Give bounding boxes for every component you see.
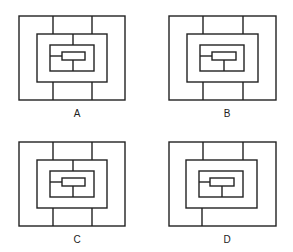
- outer-rect: [169, 16, 276, 100]
- core-rect: [62, 52, 85, 60]
- core-rect: [212, 52, 236, 60]
- inner-rect: [200, 45, 244, 71]
- middle-rect: [37, 34, 107, 82]
- figure-c: C: [19, 142, 125, 245]
- figure-d: D: [169, 142, 276, 245]
- outer-rect: [19, 16, 125, 100]
- figure-label: A: [74, 108, 81, 119]
- middle-rect: [37, 160, 107, 208]
- middle-rect: [187, 34, 258, 82]
- figure-b: B: [169, 16, 276, 119]
- outer-rect: [19, 142, 125, 226]
- inner-rect: [50, 45, 94, 71]
- outer-rect: [169, 142, 276, 226]
- figure-label: D: [223, 234, 230, 245]
- inner-rect: [50, 171, 94, 197]
- figure-label: C: [73, 234, 80, 245]
- core-rect: [210, 178, 234, 186]
- diagram-canvas: A B C D: [0, 0, 293, 252]
- core-rect: [62, 178, 85, 186]
- middle-rect: [186, 160, 257, 208]
- inner-rect: [199, 171, 243, 197]
- figure-a: A: [19, 16, 125, 119]
- figure-label: B: [224, 108, 231, 119]
